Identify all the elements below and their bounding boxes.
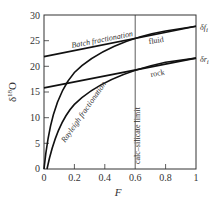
- x-axis-labels: 0 0.2 0.4 0.6 0.8 1: [42, 172, 199, 183]
- svg-text:δ18O: δ18O: [6, 82, 18, 102]
- chart: 0 5 10 15 20 25 30 0 0.2 0.4 0.6 0.8 1 F…: [0, 0, 216, 208]
- svg-text:0.6: 0.6: [129, 172, 142, 183]
- svg-text:1: 1: [194, 172, 199, 183]
- x-axis-ticks: [74, 164, 165, 169]
- delta-r-i-label: δri: [200, 55, 209, 66]
- svg-text:0: 0: [35, 163, 40, 174]
- svg-text:0.4: 0.4: [99, 172, 112, 183]
- y-axis-title: δ18O: [6, 82, 18, 102]
- rock-label: rock: [150, 68, 166, 79]
- rayleigh-fractionation-label: Rayleigh fractionation: [59, 80, 108, 145]
- svg-text:0: 0: [42, 172, 47, 183]
- svg-text:25: 25: [30, 35, 40, 46]
- svg-text:10: 10: [30, 112, 40, 123]
- y-axis-labels: 0 5 10 15 20 25 30: [30, 10, 40, 175]
- svg-text:30: 30: [30, 10, 40, 21]
- rayleigh-rock-curve: [47, 58, 196, 169]
- rayleigh-fluid-curve: [44, 26, 196, 169]
- svg-text:5: 5: [35, 138, 40, 149]
- svg-text:0.2: 0.2: [68, 172, 81, 183]
- calc-silicate-limit-label: calc–silicate limit: [133, 107, 142, 164]
- fluid-label: fluid: [148, 35, 164, 46]
- svg-text:20: 20: [30, 61, 40, 72]
- batch-fractionation-label: Batch fractionation: [71, 29, 134, 50]
- x-axis-title: F: [114, 186, 122, 198]
- svg-text:0.8: 0.8: [159, 172, 172, 183]
- delta-f-i-label: δfi: [200, 23, 208, 34]
- svg-text:15: 15: [30, 86, 40, 97]
